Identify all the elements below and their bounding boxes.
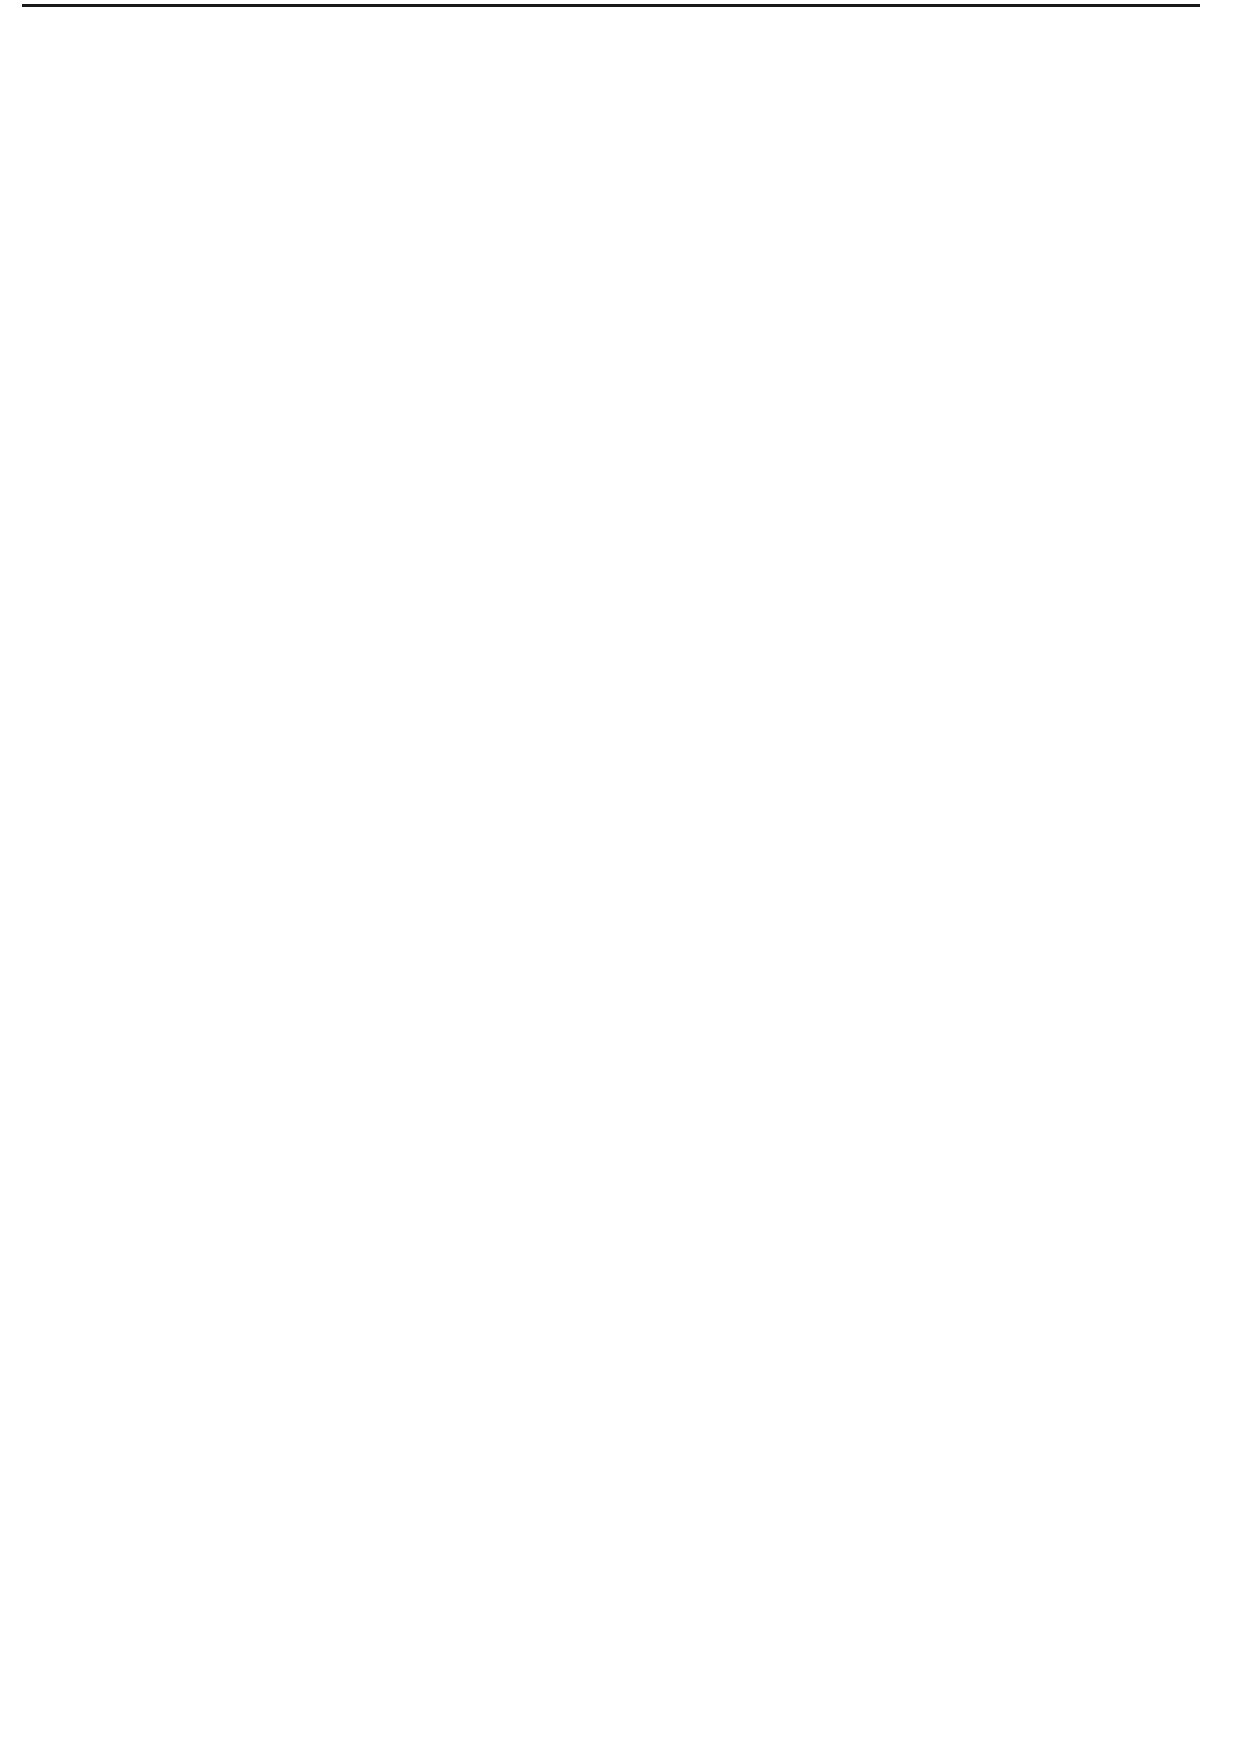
flowchart <box>0 0 1248 1739</box>
